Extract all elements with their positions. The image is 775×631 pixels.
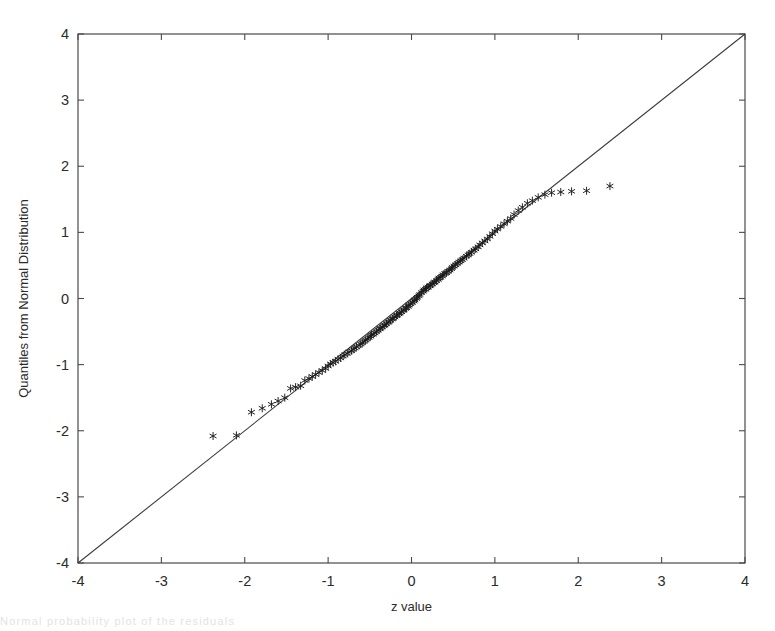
svg-text:4: 4 (741, 573, 749, 589)
plot-canvas: -4-3-2-101234-4-3-2-101234 z valueQuanti… (0, 0, 775, 631)
svg-text:-2: -2 (238, 573, 251, 589)
data-points (210, 182, 614, 440)
svg-text:-3: -3 (155, 573, 168, 589)
svg-text:4: 4 (61, 26, 69, 42)
svg-text:-1: -1 (56, 357, 69, 373)
svg-text:3: 3 (658, 573, 666, 589)
svg-text:2: 2 (61, 158, 69, 174)
svg-text:0: 0 (61, 291, 69, 307)
svg-text:-1: -1 (322, 573, 335, 589)
svg-text:1: 1 (61, 224, 69, 240)
page-edge-artifact: Normal probability plot of the residuals (0, 615, 775, 631)
svg-text:1: 1 (491, 573, 499, 589)
svg-text:3: 3 (61, 92, 69, 108)
reference-line (78, 34, 745, 563)
svg-text:z value: z value (391, 599, 432, 614)
svg-text:0: 0 (407, 573, 415, 589)
svg-text:-4: -4 (72, 573, 85, 589)
svg-text:Quantiles from Normal Distribu: Quantiles from Normal Distribution (16, 199, 31, 398)
svg-text:-2: -2 (56, 423, 69, 439)
svg-text:2: 2 (574, 573, 582, 589)
qq-plot-figure: -4-3-2-101234-4-3-2-101234 z valueQuanti… (0, 0, 775, 631)
tick-labels: -4-3-2-101234-4-3-2-101234 (56, 26, 749, 589)
svg-text:-4: -4 (56, 555, 69, 571)
svg-text:-3: -3 (56, 489, 69, 505)
